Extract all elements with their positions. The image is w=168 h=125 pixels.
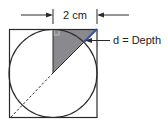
dashed-diagonal — [11, 73, 53, 117]
dimension-label: 2 cm — [63, 10, 87, 21]
depth-label: d = Depth — [113, 35, 161, 46]
arrowhead-right-icon — [46, 13, 53, 18]
arrowhead-left-icon — [97, 13, 104, 18]
